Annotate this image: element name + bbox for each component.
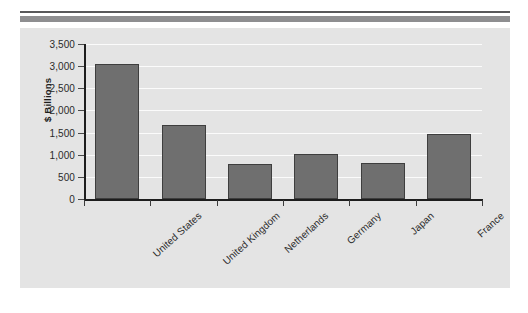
gridline: [84, 110, 482, 111]
x-axis-tick: [482, 200, 483, 206]
bar-chart-panel: $ Billions 05001,0001,5002,0002,5003,000…: [20, 28, 510, 288]
x-axis-label: United States: [151, 210, 204, 259]
x-axis-label: Netherlands: [282, 210, 330, 255]
y-axis-tick: [78, 177, 84, 178]
x-axis-tick: [283, 200, 284, 206]
plot-area: [84, 44, 482, 199]
gridline: [84, 44, 482, 45]
x-axis-tick: [84, 200, 85, 206]
gridline: [84, 177, 482, 178]
bar-netherlands[interactable]: [228, 164, 272, 199]
y-axis-tick-label: 2,000: [49, 105, 75, 116]
y-axis-tick-label: 0: [69, 194, 75, 205]
x-axis-label: Japan: [408, 210, 436, 237]
y-axis-tick: [78, 88, 84, 89]
x-axis-label: United Kingdom: [220, 210, 281, 267]
y-axis-tick-label: 2,500: [49, 83, 75, 94]
gridline: [84, 155, 482, 156]
x-axis-label: Germany: [345, 210, 383, 246]
y-axis-tick: [78, 133, 84, 134]
x-axis-label: France: [475, 210, 506, 239]
header-rules: [20, 11, 510, 25]
y-axis-tick-label: 3,000: [49, 61, 75, 72]
bar-united-kingdom[interactable]: [162, 125, 206, 199]
header-rule-thick: [20, 16, 510, 22]
x-axis-tick: [150, 200, 151, 206]
y-axis-line: [84, 44, 86, 200]
y-axis-tick-label: 500: [58, 171, 75, 182]
x-axis-tick: [217, 200, 218, 206]
y-axis-tick: [78, 199, 84, 200]
x-axis-tick: [349, 200, 350, 206]
bar-germany[interactable]: [294, 154, 338, 199]
gridlines: [84, 44, 482, 199]
bar-united-states[interactable]: [95, 64, 139, 199]
y-axis-tick-label: 1,500: [49, 127, 75, 138]
y-axis-tick-labels: 05001,0001,5002,0002,5003,0003,500: [20, 28, 75, 228]
gridline: [84, 66, 482, 67]
gridline: [84, 88, 482, 89]
y-axis-tick-label: 3,500: [49, 39, 75, 50]
header-rule-thin: [20, 11, 510, 13]
x-axis-tick: [416, 200, 417, 206]
y-axis-tick-label: 1,000: [49, 149, 75, 160]
bar-france[interactable]: [427, 134, 471, 199]
y-axis-tick: [78, 155, 84, 156]
bar-japan[interactable]: [361, 163, 405, 199]
y-axis-tick: [78, 44, 84, 45]
y-axis-tick: [78, 66, 84, 67]
gridline: [84, 133, 482, 134]
y-axis-tick: [78, 110, 84, 111]
